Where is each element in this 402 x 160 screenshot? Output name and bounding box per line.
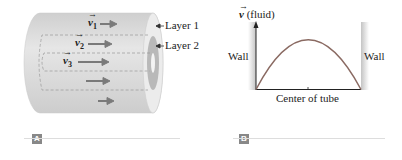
right-wall-label: Wall	[364, 50, 385, 62]
panel-a-tube-layers: →v1 →v2 →v3 Layer 1 Layer 2 A	[0, 0, 200, 160]
velocity-label-1: →v1	[88, 16, 97, 31]
panel-b-velocity-profile: →v (fluid) Wall Wall Center of tube B	[200, 0, 402, 160]
divider	[233, 138, 385, 139]
vector-arrow: →	[88, 9, 97, 19]
velocity-label-3: →v3	[63, 54, 72, 69]
vector-arrow: →	[63, 47, 72, 57]
divider	[24, 138, 180, 139]
y-axis-label: →v (fluid)	[239, 8, 275, 20]
vector-arrow: →	[239, 1, 248, 11]
panel-tag-a: A	[32, 134, 42, 144]
panel-tag-b: B	[239, 134, 249, 144]
layer-2-label: Layer 2	[165, 39, 199, 51]
left-wall	[248, 22, 256, 90]
left-wall-label: Wall	[228, 50, 249, 62]
velocity-curve	[256, 40, 361, 90]
vector-arrow: →	[75, 29, 84, 39]
layer-1-label: Layer 1	[165, 19, 199, 31]
velocity-label-2: →v2	[75, 36, 84, 51]
velocity-profile-graph	[200, 0, 402, 160]
x-axis-label: Center of tube	[276, 92, 339, 104]
